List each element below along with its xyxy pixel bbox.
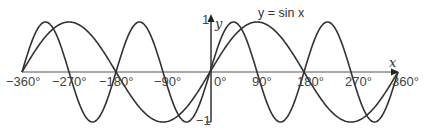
tick-label: −180° [99, 74, 133, 89]
tick-label: 90° [252, 74, 272, 89]
tick-label: 360° [392, 74, 419, 89]
tick-label: −90° [154, 74, 181, 89]
tick-label: 180° [297, 74, 324, 89]
tick-label: −270° [52, 74, 86, 89]
sine-chart: −360° −270° −180° −90° 0° 90° 180° 270° … [0, 0, 425, 133]
curve-label: y = sin x [258, 6, 305, 20]
x-tick-labels: −360° −270° −180° −90° 0° 90° 180° 270° … [6, 74, 419, 89]
tick-label: −360° [6, 74, 40, 89]
tick-label: 0° [214, 74, 226, 89]
y-tick-label-bottom: −1 [196, 113, 211, 128]
tick-label: 270° [345, 74, 372, 89]
x-axis-label: x [389, 55, 397, 70]
y-axis-label: y [214, 16, 223, 31]
y-tick-label-top: 1 [202, 12, 209, 27]
